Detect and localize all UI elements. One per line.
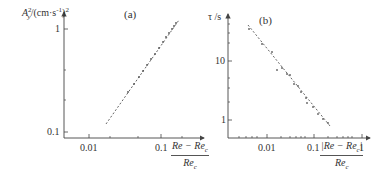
panel-b-ylabel: τ /s (208, 12, 221, 22)
panel-a-ylabel: A2y/(cm·s-1)2 (22, 7, 69, 21)
panel-a-xtick-0.1: 0.1 (155, 143, 168, 153)
panel-b-xtick-0.1: 0.1 (307, 143, 320, 153)
panel-a-fit-line (106, 20, 179, 124)
panel-a-ytick-0.1: 0.1 (47, 127, 60, 137)
panel-a-ytick-1: 1 (55, 24, 60, 34)
panel-b-axes (228, 14, 370, 138)
panel-a-axes (64, 12, 204, 138)
panel-a-label: (a) (124, 9, 136, 20)
panel-a-xtick-0.01: 0.01 (80, 143, 98, 153)
panel-b-xlabel: |Re − Rec| Rec (320, 141, 363, 171)
panel-b-xtick-0.01: 0.01 (258, 143, 276, 153)
panel-a-xlabel: Re − Rec Rec (171, 141, 209, 171)
panel-b-ytick-10: 10 (215, 56, 225, 66)
panel-b-label: (b) (259, 15, 272, 26)
panel-b-fit-line (248, 25, 330, 126)
panel-a-data-points (127, 22, 177, 93)
panel-b-ytick-1: 1 (221, 115, 226, 125)
